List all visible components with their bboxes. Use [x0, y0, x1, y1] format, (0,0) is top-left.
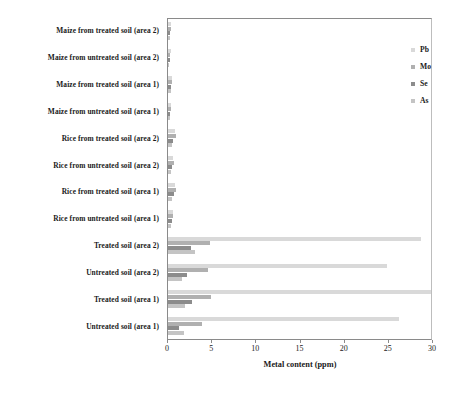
chart-figure: Maize from treated soil (area 2)Maize fr… — [0, 0, 468, 394]
bar-group — [168, 100, 431, 127]
y-axis-label: Rice from untreated soil (area 2) — [53, 162, 159, 169]
legend-item-mo[interactable]: Mo — [411, 58, 457, 75]
bar-group — [168, 46, 431, 73]
bar-as — [168, 143, 172, 147]
bar-group — [168, 234, 431, 261]
legend-swatch-icon — [411, 82, 415, 86]
legend-item-as[interactable]: As — [411, 92, 457, 109]
y-axis-label: Treated soil (area 1) — [94, 296, 159, 303]
bar-mo — [168, 322, 202, 326]
x-axis-title: Metal content (ppm) — [167, 360, 433, 369]
bar-mo — [168, 53, 170, 57]
legend-label: As — [420, 97, 428, 105]
bar-se — [168, 219, 172, 223]
bar-mo — [168, 241, 210, 245]
bar-pb — [168, 129, 175, 133]
bar-group — [168, 19, 431, 46]
bar-as — [168, 224, 171, 228]
bar-mo — [168, 268, 208, 272]
bar-pb — [168, 290, 431, 294]
x-axis-ticks: 051015202530 — [167, 340, 433, 358]
y-axis-label: Maize from untreated soil (area 2) — [48, 54, 159, 61]
x-tick-label: 20 — [340, 344, 348, 353]
bar-pb — [168, 210, 173, 214]
y-axis-label: Rice from untreated soil (area 1) — [53, 215, 159, 222]
bar-group — [168, 287, 431, 314]
bar-pb — [168, 183, 175, 187]
y-axis-label: Untreated soil (area 1) — [86, 323, 159, 330]
bar-mo — [168, 188, 176, 192]
bar-se — [168, 85, 171, 89]
legend-swatch-icon — [411, 65, 415, 69]
bar-mo — [168, 134, 176, 138]
bar-mo — [168, 107, 171, 111]
x-tick-mark — [211, 340, 212, 343]
legend-item-pb[interactable]: Pb — [411, 41, 457, 58]
y-axis-category-labels: Maize from treated soil (area 2)Maize fr… — [0, 18, 163, 340]
x-tick-label: 5 — [209, 344, 213, 353]
x-tick-mark — [255, 340, 256, 343]
y-axis-label: Untreated soil (area 2) — [86, 269, 159, 276]
bar-as — [168, 63, 169, 67]
bar-se — [168, 139, 173, 143]
bar-group — [168, 261, 431, 288]
bar-pb — [168, 156, 173, 160]
bar-pb — [168, 264, 387, 268]
chart-legend: PbMoSeAs — [411, 41, 457, 109]
bar-pb — [168, 76, 172, 80]
legend-label: Mo — [420, 63, 431, 71]
bar-mo — [168, 295, 211, 299]
bar-se — [168, 300, 192, 304]
bar-mo — [168, 214, 173, 218]
bar-group — [168, 180, 431, 207]
bar-as — [168, 197, 172, 201]
y-axis-label: Maize from untreated soil (area 1) — [48, 108, 159, 115]
legend-item-se[interactable]: Se — [411, 75, 457, 92]
bar-as — [168, 36, 170, 40]
bar-pb — [168, 49, 171, 53]
bar-as — [168, 170, 171, 174]
legend-swatch-icon — [411, 99, 415, 103]
legend-label: Se — [420, 80, 428, 88]
bar-as — [168, 277, 182, 281]
x-tick-label: 0 — [165, 344, 169, 353]
x-tick-mark — [432, 340, 433, 343]
x-tick-label: 30 — [428, 344, 436, 353]
bar-as — [168, 116, 170, 120]
bar-pb — [168, 103, 171, 107]
bar-se — [168, 112, 170, 116]
x-tick-mark — [388, 340, 389, 343]
x-tick-mark — [167, 340, 168, 343]
legend-swatch-icon — [411, 48, 415, 52]
bar-se — [168, 165, 172, 169]
y-axis-label: Maize from treated soil (area 2) — [56, 27, 159, 34]
bar-as — [168, 304, 185, 308]
bar-mo — [168, 161, 174, 165]
bar-group — [168, 126, 431, 153]
bar-se — [168, 273, 187, 277]
bar-mo — [168, 80, 172, 84]
bar-se — [168, 58, 170, 62]
y-axis-label: Rice from treated soil (area 1) — [62, 188, 159, 195]
bar-group — [168, 207, 431, 234]
bar-as — [168, 250, 195, 254]
bar-se — [168, 326, 179, 330]
bar-se — [168, 31, 170, 35]
plot-area: PbMoSeAs — [167, 18, 432, 340]
bar-pb — [168, 317, 399, 321]
bar-as — [168, 89, 171, 93]
bar-pb — [168, 237, 421, 241]
bar-pb — [168, 22, 171, 26]
x-tick-mark — [300, 340, 301, 343]
x-tick-mark — [344, 340, 345, 343]
bar-se — [168, 246, 191, 250]
bar-mo — [168, 27, 171, 31]
bar-se — [168, 192, 174, 196]
bar-group — [168, 153, 431, 180]
x-tick-label: 10 — [251, 344, 259, 353]
legend-label: Pb — [420, 46, 429, 54]
bar-as — [168, 331, 184, 335]
bar-group — [168, 314, 431, 341]
bar-group — [168, 73, 431, 100]
y-axis-label: Maize from treated soil (area 1) — [56, 81, 159, 88]
